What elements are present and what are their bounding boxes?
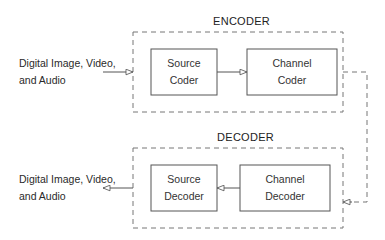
- output-label-line1: Digital Image, Video,: [19, 171, 116, 188]
- encoder-title: ENCODER: [213, 15, 270, 27]
- channel-decoder-label: Channel Decoder: [240, 171, 330, 205]
- source-decoder-line1: Source: [151, 171, 217, 188]
- channel-coder-label: Channel Coder: [247, 55, 337, 89]
- source-decoder-line2: Decoder: [151, 188, 217, 205]
- source-coder-label: Source Coder: [151, 55, 217, 89]
- channel-decoder-line2: Decoder: [240, 188, 330, 205]
- channel-coder-line2: Coder: [247, 72, 337, 89]
- channel-decoder-line1: Channel: [240, 171, 330, 188]
- input-label-line2: and Audio: [19, 72, 66, 89]
- input-label-line1: Digital Image, Video,: [19, 55, 116, 72]
- source-decoder-label: Source Decoder: [151, 171, 217, 205]
- output-label-line2: and Audio: [19, 188, 66, 205]
- source-coder-line2: Coder: [151, 72, 217, 89]
- source-coder-line1: Source: [151, 55, 217, 72]
- channel-coder-line1: Channel: [247, 55, 337, 72]
- decoder-title: DECODER: [217, 131, 274, 143]
- channel-link: [343, 72, 367, 202]
